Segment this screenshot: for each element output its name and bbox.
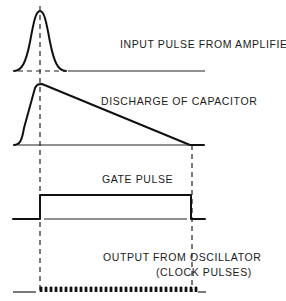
clock-tick: [135, 287, 137, 292]
clock-tick: [180, 287, 182, 292]
clock-tick: [125, 287, 127, 292]
clock-tick: [190, 287, 192, 292]
clock-tick: [80, 287, 82, 292]
clock-tick: [95, 287, 97, 292]
clock-tick: [75, 287, 77, 292]
gate-pulse-waveform: [13, 195, 205, 219]
clock-tick: [130, 287, 132, 292]
clock-tick: [155, 287, 157, 292]
clock-tick: [85, 287, 87, 292]
clock-tick: [115, 287, 117, 292]
clock-tick: [195, 287, 197, 292]
clock-tick: [145, 287, 147, 292]
clock-tick: [60, 287, 62, 292]
clock-tick: [140, 287, 142, 292]
clock-tick: [100, 287, 102, 292]
clock-tick: [55, 287, 57, 292]
clock-tick: [160, 287, 162, 292]
clock-tick: [165, 287, 167, 292]
capacitor-label: DISCHARGE OF CAPACITOR: [101, 95, 257, 107]
input-pulse-trace: INPUT PULSE FROM AMPLIFIER: [14, 11, 286, 71]
clock-tick: [70, 287, 72, 292]
clock-label-line1: OUTPUT FROM OSCILLATOR: [103, 251, 261, 263]
gate-pulse-trace: GATE PULSE: [13, 173, 205, 219]
input-pulse-label: INPUT PULSE FROM AMPLIFIER: [120, 38, 286, 50]
clock-tick: [150, 287, 152, 292]
clock-tick: [40, 287, 42, 292]
clock-pulse-trace: OUTPUT FROM OSCILLATOR (CLOCK PULSES): [13, 251, 261, 292]
clock-tick: [90, 287, 92, 292]
capacitor-discharge-trace: DISCHARGE OF CAPACITOR: [14, 84, 257, 145]
clock-tick: [105, 287, 107, 292]
clock-tick: [185, 287, 187, 292]
clock-tick: [65, 287, 67, 292]
clock-tick: [175, 287, 177, 292]
clock-label-line2: (CLOCK PULSES): [156, 266, 252, 278]
clock-tick: [50, 287, 52, 292]
timing-diagram: INPUT PULSE FROM AMPLIFIER DISCHARGE OF …: [0, 0, 286, 301]
clock-tick: [170, 287, 172, 292]
gate-pulse-label: GATE PULSE: [102, 173, 173, 185]
clock-pulse-ticks: [40, 287, 197, 292]
capacitor-discharge-curve: [14, 84, 204, 145]
clock-tick: [45, 287, 47, 292]
clock-tick: [120, 287, 122, 292]
clock-tick: [110, 287, 112, 292]
